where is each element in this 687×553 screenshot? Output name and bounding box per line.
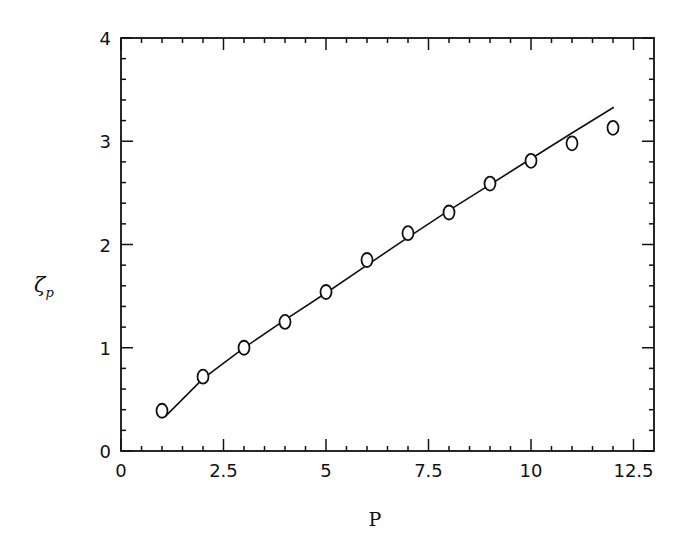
x-tick-label: 5: [320, 460, 331, 481]
data-point: [403, 226, 414, 240]
data-point: [239, 341, 250, 355]
x-tick-label: 7.5: [414, 460, 443, 481]
x-axis-label: P: [369, 508, 382, 530]
y-tick-label: 4: [100, 28, 111, 49]
data-point: [157, 404, 168, 418]
data-point: [485, 177, 496, 191]
data-points: [157, 121, 619, 418]
data-point: [444, 205, 455, 219]
x-tick-label: 0: [115, 460, 126, 481]
data-point: [526, 154, 537, 168]
model-curve: [165, 107, 614, 417]
y-axis-label: ζp: [34, 273, 54, 300]
x-tick-label: 2.5: [209, 460, 238, 481]
data-point: [362, 253, 373, 267]
x-tick-label: 10: [520, 460, 543, 481]
tick-labels: 02.557.51012.501234: [100, 28, 654, 481]
data-point: [567, 136, 578, 150]
y-tick-label: 2: [100, 235, 111, 256]
x-tick-label: 12.5: [613, 460, 653, 481]
zeta-p-chart: 02.557.51012.501234 P ζp: [0, 0, 687, 553]
y-tick-label: 0: [100, 441, 111, 462]
data-point: [321, 285, 332, 299]
plot-frame: [121, 38, 654, 451]
data-point: [198, 370, 209, 384]
y-tick-label: 3: [100, 131, 111, 152]
data-point: [280, 315, 291, 329]
data-point: [608, 121, 619, 135]
axis-ticks: [121, 38, 654, 451]
y-tick-label: 1: [100, 338, 111, 359]
